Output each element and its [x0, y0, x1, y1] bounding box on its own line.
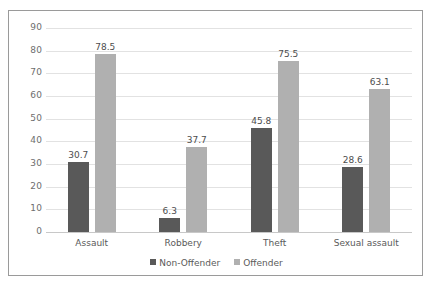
- legend-swatch-icon: [150, 259, 156, 265]
- legend-label: Non-Offender: [159, 258, 220, 268]
- bar[interactable]: [95, 54, 116, 232]
- bar-value-label: 28.6: [334, 155, 371, 165]
- x-axis-category-label: Sexual assault: [321, 238, 413, 248]
- bar-value-label: 37.7: [178, 135, 215, 145]
- bar[interactable]: [278, 61, 299, 232]
- bar[interactable]: [68, 162, 89, 232]
- x-axis-category-label: Assault: [46, 238, 138, 248]
- y-axis-tick-label: 60: [8, 91, 42, 100]
- legend-item[interactable]: Non-Offender: [150, 257, 220, 268]
- bar-value-label: 45.8: [243, 116, 280, 126]
- y-axis-tick-label: 90: [8, 23, 42, 32]
- legend-item[interactable]: Offender: [234, 257, 282, 268]
- y-axis-tick-label: 30: [8, 159, 42, 168]
- y-axis: 0102030405060708090: [0, 28, 42, 232]
- bar[interactable]: [186, 147, 207, 232]
- bar-value-label: 30.7: [60, 150, 97, 160]
- bar-value-label: 78.5: [87, 42, 124, 52]
- y-axis-tick-label: 70: [8, 68, 42, 77]
- y-axis-tick-label: 80: [8, 46, 42, 55]
- chart-legend: Non-OffenderOffender: [0, 257, 433, 268]
- y-axis-tick-label: 0: [8, 227, 42, 236]
- bar[interactable]: [159, 218, 180, 232]
- gridline: [46, 232, 412, 233]
- bar[interactable]: [369, 89, 390, 232]
- bar-value-label: 75.5: [270, 49, 307, 59]
- bar-value-label: 6.3: [151, 206, 188, 216]
- bar-chart-figure: 0102030405060708090 Non-OffenderOffender…: [0, 0, 433, 286]
- y-axis-tick-label: 40: [8, 136, 42, 145]
- x-axis-category-label: Robbery: [138, 238, 230, 248]
- y-axis-tick-label: 10: [8, 204, 42, 213]
- bar[interactable]: [251, 128, 272, 232]
- x-axis-category-label: Theft: [229, 238, 321, 248]
- legend-label: Offender: [243, 258, 282, 268]
- y-axis-tick-label: 50: [8, 114, 42, 123]
- gridline: [46, 28, 412, 29]
- bar-value-label: 63.1: [361, 77, 398, 87]
- plot-area: [46, 28, 412, 232]
- bar[interactable]: [342, 167, 363, 232]
- y-axis-tick-label: 20: [8, 182, 42, 191]
- legend-swatch-icon: [234, 259, 240, 265]
